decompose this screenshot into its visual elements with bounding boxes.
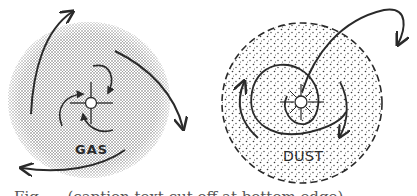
caption-text: Fig. ... (caption text cut off at bottom… bbox=[14, 188, 343, 196]
caption-cutoff: Fig. ... (caption text cut off at bottom… bbox=[14, 186, 414, 196]
gas-panel: GAS bbox=[8, 12, 183, 178]
gas-label: GAS bbox=[75, 142, 108, 157]
dust-label: DUST bbox=[283, 148, 323, 164]
dust-panel: DUST bbox=[222, 10, 404, 183]
figure-canvas: GAS DUST bbox=[0, 0, 417, 196]
